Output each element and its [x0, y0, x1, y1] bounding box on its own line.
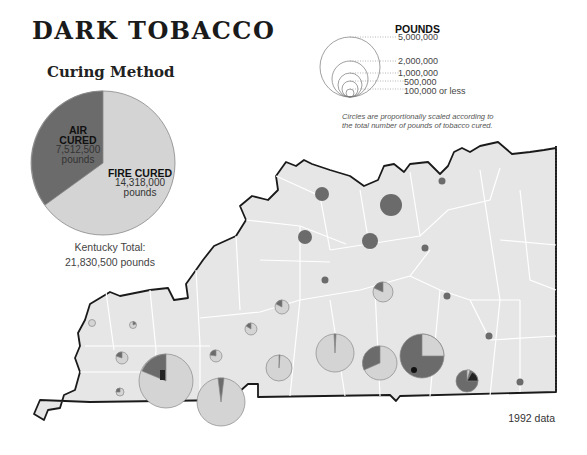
- total-value: 21,830,500 pounds: [40, 255, 180, 270]
- data-year-footnote: 1992 data: [508, 412, 555, 424]
- size-legend-circles: [320, 37, 405, 97]
- air-cured-label: AIR CURED 7,512,500 pounds: [48, 125, 108, 165]
- legend-size-2m: 2,000,000: [398, 56, 438, 66]
- fire-cured-unit: pounds: [100, 188, 180, 198]
- fire-cured-label: FIRE CURED 14,318,000 pounds: [100, 168, 180, 198]
- map-canvas: [0, 0, 587, 455]
- legend-note: Circles are proportionally scaled accord…: [342, 112, 502, 130]
- air-cured-unit: pounds: [48, 155, 108, 165]
- legend-size-100k: 100,000 or less: [404, 86, 466, 96]
- kentucky-total: Kentucky Total: 21,830,500 pounds: [40, 240, 180, 270]
- total-label: Kentucky Total:: [40, 240, 180, 255]
- legend-size-5m: 5,000,000: [398, 32, 438, 42]
